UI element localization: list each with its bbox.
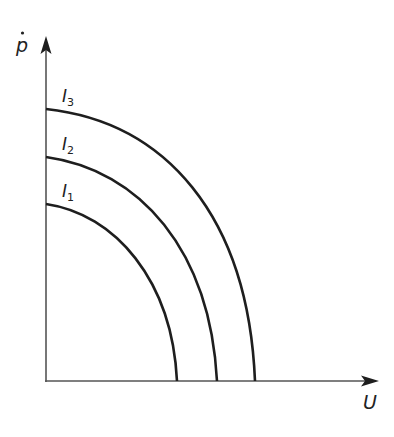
- diagram-canvas: p U I3 I2 I1: [0, 0, 394, 437]
- x-axis-label: U: [363, 391, 377, 413]
- curve-label-i3: I3: [62, 86, 74, 109]
- y-axis-label: p: [15, 34, 28, 56]
- curve-i1: [46, 204, 177, 381]
- y-axis-label-dot: [21, 31, 24, 34]
- curve-label-i1: I1: [62, 181, 74, 204]
- curve-label-i2: I2: [62, 134, 74, 157]
- curve-i3: [46, 109, 255, 381]
